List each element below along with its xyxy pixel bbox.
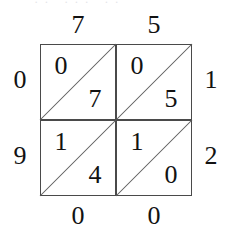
clipped-top-text-remnant: ·· ··· ·· <box>34 0 194 4</box>
bottom-label-col-1: 0 <box>142 203 166 229</box>
left-label-row-1: 9 <box>8 143 32 169</box>
cell-top-left-lower-digit: 7 <box>84 86 106 112</box>
right-label-row-1: 2 <box>199 143 223 169</box>
lattice-multiplication-figure: ·· ··· ·· 7 5 0 9 1 2 0 0 0 7 0 5 1 4 1 … <box>0 0 228 235</box>
top-label-col-0: 7 <box>66 12 90 38</box>
top-label-col-1: 5 <box>142 12 166 38</box>
lattice-grid: 0 7 0 5 1 4 1 0 <box>40 44 192 196</box>
right-label-row-0: 1 <box>199 67 223 93</box>
bottom-label-col-0: 0 <box>66 203 90 229</box>
cell-bottom-left-lower-digit: 4 <box>84 162 106 188</box>
cell-bottom-right-upper-digit: 1 <box>126 129 148 155</box>
cell-top-right-upper-digit: 0 <box>126 53 148 79</box>
cell-bottom-left-upper-digit: 1 <box>50 129 72 155</box>
cell-top-right-lower-digit: 5 <box>160 86 182 112</box>
cell-bottom-right-lower-digit: 0 <box>160 162 182 188</box>
cell-top-left-upper-digit: 0 <box>50 53 72 79</box>
left-label-row-0: 0 <box>8 67 32 93</box>
